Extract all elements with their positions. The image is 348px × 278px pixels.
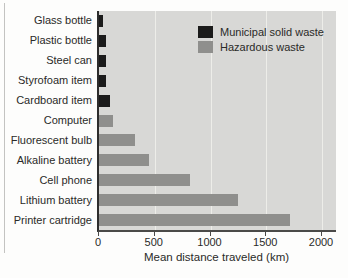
tick-label-2000: 2000 [309, 236, 333, 248]
bar-styrofoam-item [99, 75, 106, 87]
category-label-styrofoam-item: Styrofoam item [0, 73, 92, 88]
legend: Municipal solid waste Hazardous waste [198, 26, 324, 56]
bar-fluorescent-bulb [99, 134, 135, 146]
legend-swatch-municipal-icon [198, 26, 213, 38]
category-label-cardboard-item: Cardboard item [0, 93, 92, 108]
category-label-fluorescent-bulb: Fluorescent bulb [0, 133, 92, 148]
tick-label-1000: 1000 [197, 236, 221, 248]
category-label-glass-bottle: Glass bottle [0, 13, 92, 28]
legend-swatch-hazardous-icon [198, 41, 213, 53]
category-label-alkaline-battery: Alkaline battery [0, 153, 92, 168]
legend-item-municipal-solid-waste: Municipal solid waste [198, 26, 324, 38]
tick-label-0: 0 [95, 236, 101, 248]
bar-cardboard-item [99, 95, 110, 107]
bar-steel-can [99, 55, 106, 67]
bar-printer-cartridge [99, 214, 290, 226]
bar-lithium-battery [99, 194, 238, 206]
legend-label-municipal: Municipal solid waste [220, 26, 324, 38]
bar-alkaline-battery [99, 154, 149, 166]
tick-label-500: 500 [145, 236, 163, 248]
plot-area: Municipal solid waste Hazardous waste [97, 11, 336, 232]
bar-computer [99, 115, 113, 127]
bar-glass-bottle [99, 15, 103, 27]
legend-item-hazardous-waste: Hazardous waste [198, 41, 324, 53]
bar-chart-figure: Municipal solid waste Hazardous waste Gl… [0, 0, 348, 278]
category-label-printer-cartridge: Printer cartridge [0, 213, 92, 228]
tick-label-1500: 1500 [253, 236, 277, 248]
category-label-computer: Computer [0, 113, 92, 128]
category-label-lithium-battery: Lithium battery [0, 193, 92, 208]
bar-cell-phone [99, 174, 190, 186]
category-label-plastic-bottle: Plastic bottle [0, 33, 92, 48]
bar-plastic-bottle [99, 35, 106, 47]
x-axis-title: Mean distance traveled (km) [97, 251, 336, 263]
category-label-cell-phone: Cell phone [0, 173, 92, 188]
legend-label-hazardous: Hazardous waste [220, 41, 305, 53]
category-label-steel-can: Steel can [0, 53, 92, 68]
